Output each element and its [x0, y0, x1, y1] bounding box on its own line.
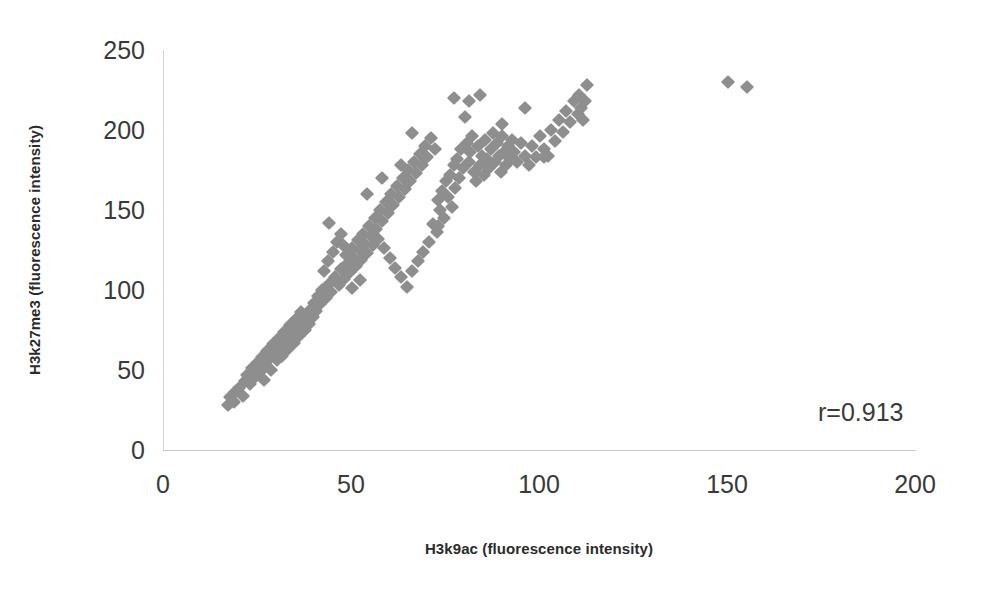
- data-point: [405, 126, 419, 140]
- plot-area: [163, 50, 916, 451]
- y-tick-label-150: 150: [75, 196, 145, 225]
- data-point: [375, 171, 389, 185]
- x-axis-title: H3k9ac (fluorescence intensity): [163, 540, 915, 557]
- data-point: [740, 80, 754, 94]
- data-point: [360, 187, 374, 201]
- x-tick-label-50: 50: [311, 470, 391, 499]
- x-tick-label-200: 200: [875, 470, 955, 499]
- data-point: [518, 101, 532, 115]
- data-point: [322, 216, 336, 230]
- y-tick-label-0: 0: [75, 436, 145, 465]
- data-point: [721, 75, 735, 89]
- x-tick-label-150: 150: [687, 470, 767, 499]
- data-point: [495, 117, 509, 131]
- y-tick-label-200: 200: [75, 116, 145, 145]
- scatter-chart: H3k27me3 (fluorescence intensity) 250 20…: [0, 0, 994, 601]
- x-tick-label-0: 0: [123, 470, 203, 499]
- y-tick-label-250: 250: [75, 36, 145, 65]
- x-tick-label-100: 100: [499, 470, 579, 499]
- data-points-layer: [164, 50, 916, 450]
- y-tick-label-100: 100: [75, 276, 145, 305]
- correlation-annotation: r=0.913: [818, 398, 904, 427]
- y-axis-title: H3k27me3 (fluorescence intensity): [26, 35, 52, 465]
- data-point: [458, 110, 472, 124]
- data-point: [446, 91, 460, 105]
- y-tick-label-50: 50: [75, 356, 145, 385]
